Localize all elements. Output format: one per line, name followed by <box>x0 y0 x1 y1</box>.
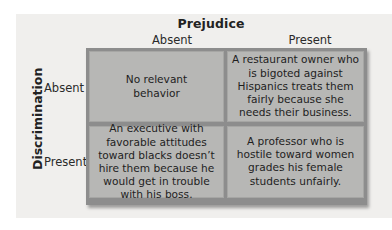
cell-prejudice-discrimination: A professor who is hostile toward women … <box>227 126 364 198</box>
cell-no-prejudice-no-discrimination: No relevant behavior <box>89 51 224 122</box>
cell-no-prejudice-discrimination: An executive with favorable attitudes to… <box>89 126 224 198</box>
column-axis-title: Prejudice <box>0 16 392 31</box>
row-label-absent: Absent <box>44 81 84 95</box>
cell-prejudice-no-discrimination: A restaurant owner who is bigoted agains… <box>227 51 364 122</box>
two-by-two-grid: No relevant behavior A restaurant owner … <box>86 48 367 205</box>
cell-text: An executive with favorable attitudes to… <box>89 122 224 201</box>
cell-text: No relevant behavior <box>117 73 197 99</box>
column-label-absent: Absent <box>142 33 202 47</box>
cell-text: A professor who is hostile toward women … <box>233 135 359 188</box>
column-label-present: Present <box>275 33 345 47</box>
row-label-present: Present <box>44 155 84 169</box>
row-axis-title: Discrimination <box>30 68 45 170</box>
cell-text: A restaurant owner who is bigoted agains… <box>228 53 364 119</box>
